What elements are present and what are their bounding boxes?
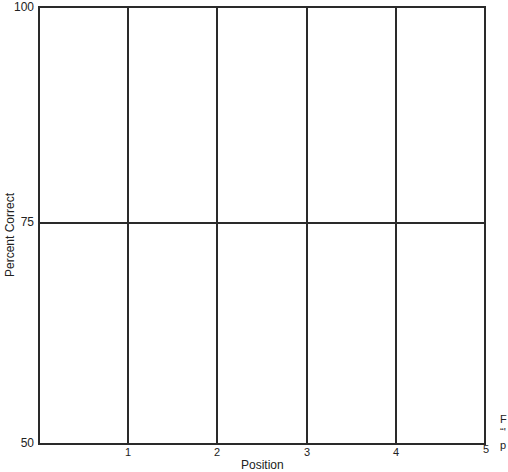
gridline-x3 [306,6,308,444]
top-border [38,6,486,8]
x-tick-3: 3 [297,446,317,458]
x-tick-2: 2 [207,446,227,458]
caption-fragment: F “' p [500,413,507,452]
x-axis-label: Position [241,458,284,472]
y-axis-label: Percent Correct [3,193,17,277]
x-tick-1: 1 [118,446,138,458]
gridline-x4 [395,6,397,444]
caption-line-3: p [500,439,507,452]
x-tick-4: 4 [386,446,406,458]
gridline-75 [38,222,486,224]
y-tick-100: 100 [2,0,34,14]
x-tick-5: 5 [476,443,496,455]
caption-line-2: “' [500,426,507,439]
caption-line-1: F [500,413,507,426]
y-tick-50: 50 [2,436,34,450]
y-axis [38,6,40,444]
gridline-x2 [216,6,218,444]
gridline-x1 [127,6,129,444]
x-axis [38,443,486,445]
right-border [484,6,486,444]
